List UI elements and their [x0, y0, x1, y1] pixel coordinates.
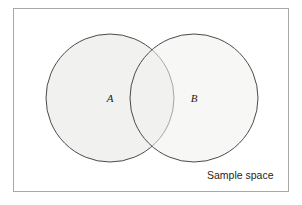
sample-space-label: Sample space: [207, 170, 274, 181]
set-b-label: B: [191, 93, 198, 104]
venn-diagram-figure: A B Sample space: [0, 0, 302, 205]
set-a-label: A: [107, 93, 114, 104]
